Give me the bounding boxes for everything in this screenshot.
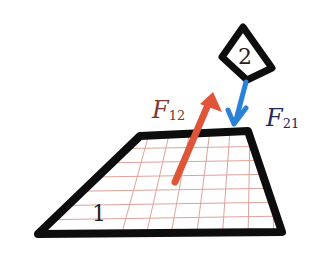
force-f21-arrow-icon bbox=[228, 82, 246, 124]
label-f12-symbol: F bbox=[152, 96, 169, 124]
label-f21: F21 bbox=[266, 106, 299, 130]
block-1-label: 1 bbox=[92, 203, 106, 225]
label-f21-subscript: 21 bbox=[283, 116, 300, 131]
block-2-label: 2 bbox=[238, 46, 252, 68]
label-f12-subscript: 12 bbox=[169, 108, 186, 123]
label-f21-symbol: F bbox=[266, 104, 283, 132]
label-f12: F12 bbox=[152, 98, 185, 122]
